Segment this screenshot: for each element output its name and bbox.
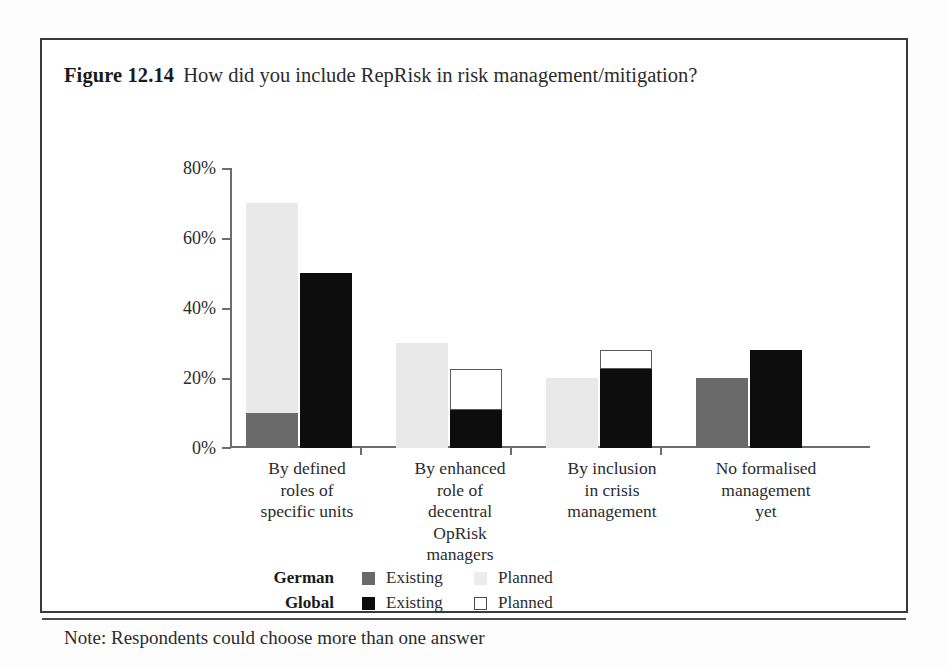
seg-german-planned-2 (396, 343, 448, 448)
category-label-1-line-1: By defined (224, 458, 390, 480)
category-label-2: By enhanced role of decentral OpRisk man… (380, 458, 540, 566)
bar-group-by-defined-roles (232, 168, 382, 448)
category-label-2-line-2: role of (380, 480, 540, 502)
category-label-4-line-3: yet (684, 501, 848, 523)
category-label-2-line-1: By enhanced (380, 458, 540, 480)
legend-swatch-global-existing (362, 597, 375, 610)
seg-global-existing-4 (750, 350, 802, 448)
seg-global-existing-1 (300, 273, 352, 448)
category-label-1-line-2: roles of (224, 480, 390, 502)
y-tick-label-60: 60% (183, 229, 216, 247)
legend-label-german-planned: Planned (498, 567, 553, 589)
legend-label-global-planned: Planned (498, 592, 553, 614)
y-tick-60 (222, 238, 231, 240)
seg-global-existing-3 (600, 369, 652, 448)
legend-group-global: Global (214, 592, 334, 614)
y-tick-label-80: 80% (183, 159, 216, 177)
y-tick-0 (222, 447, 231, 449)
y-tick-label-40: 40% (183, 299, 216, 317)
category-label-4: No formalised management yet (684, 458, 848, 523)
figure-note: Note: Respondents could choose more than… (64, 626, 485, 650)
seg-german-existing-4 (696, 378, 748, 448)
y-tick-20 (222, 378, 231, 380)
category-label-3-line-3: management (532, 501, 692, 523)
category-label-3-line-2: in crisis (532, 480, 692, 502)
figure-number: Figure 12.14 (64, 64, 174, 86)
legend-group-german: German (214, 567, 334, 589)
bar-group-no-formalised (682, 168, 832, 448)
figure-frame: Figure 12.14How did you include RepRisk … (40, 38, 908, 613)
note-divider (42, 618, 906, 620)
legend-swatch-german-planned (474, 572, 487, 585)
category-label-2-line-3: decentral (380, 501, 540, 523)
seg-german-planned-3 (546, 378, 598, 448)
seg-global-planned-2 (450, 369, 502, 410)
y-tick-label-0: 0% (192, 439, 216, 457)
chart-legend: German Existing Planned Global Existing … (42, 567, 910, 617)
seg-global-planned-3 (600, 350, 652, 369)
figure-title: Figure 12.14How did you include RepRisk … (64, 62, 888, 88)
figure-title-text: How did you include RepRisk in risk mana… (183, 64, 697, 86)
legend-swatch-global-planned (474, 597, 487, 610)
y-tick-40 (222, 308, 231, 310)
bar-group-by-enhanced-role (382, 168, 532, 448)
category-label-4-line-2: management (684, 480, 848, 502)
category-label-3: By inclusion in crisis management (532, 458, 692, 523)
y-tick-label-20: 20% (183, 369, 216, 387)
y-axis-labels: 0% 20% 40% 60% 80% (138, 102, 224, 392)
legend-row-german: German Existing Planned (42, 567, 910, 589)
legend-swatch-german-existing (362, 572, 375, 585)
category-label-2-line-4: OpRisk (380, 523, 540, 545)
legend-label-german-existing: Existing (386, 567, 443, 589)
legend-label-global-existing: Existing (386, 592, 443, 614)
seg-german-planned-1 (246, 203, 298, 413)
legend-row-global: Global Existing Planned (42, 592, 910, 614)
figure-page: Figure 12.14How did you include RepRisk … (0, 0, 948, 666)
category-label-2-line-5: managers (380, 544, 540, 566)
seg-german-existing-1 (246, 413, 298, 448)
y-tick-80 (222, 168, 231, 170)
category-label-4-line-1: No formalised (684, 458, 848, 480)
bar-groups (232, 168, 872, 448)
category-label-3-line-1: By inclusion (532, 458, 692, 480)
category-label-1: By defined roles of specific units (224, 458, 390, 523)
category-label-1-line-3: specific units (224, 501, 390, 523)
plot-area: 0% 20% 40% 60% 80% (42, 102, 910, 522)
bar-group-by-inclusion-crisis (532, 168, 682, 448)
seg-global-existing-2 (450, 410, 502, 449)
